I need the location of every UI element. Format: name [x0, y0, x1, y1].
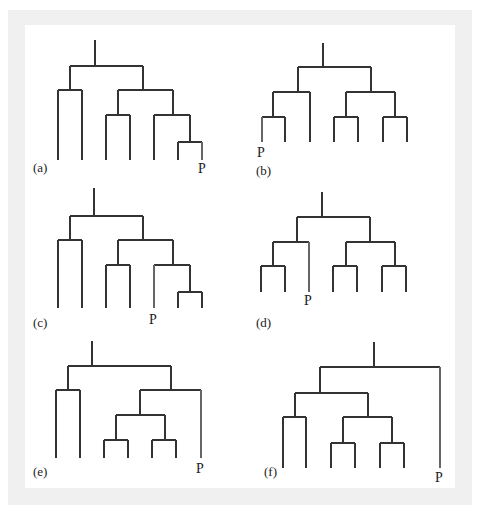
- tree-d: (d) P: [256, 192, 406, 330]
- tree-e: (e) P: [33, 341, 204, 479]
- tree-c-branches: [58, 188, 202, 308]
- tree-b-label: (b): [256, 163, 271, 178]
- tree-f-label: (f): [264, 464, 277, 479]
- tree-b: (b) P: [256, 43, 407, 178]
- tree-e-branches: [56, 341, 201, 458]
- tree-a-label: (a): [33, 160, 47, 175]
- tree-c-p-label: P: [149, 312, 157, 327]
- tree-b-p-label: P: [257, 145, 265, 160]
- tree-e-label: (e): [33, 464, 47, 479]
- tree-c-label: (c): [33, 315, 47, 330]
- tree-b-branches: [262, 43, 407, 142]
- tree-e-p-label: P: [196, 461, 204, 476]
- tree-f: (f) P: [264, 342, 443, 485]
- tree-d-branches: [261, 192, 406, 292]
- tree-d-label: (d): [256, 315, 271, 330]
- tree-d-p-label: P: [304, 293, 312, 308]
- tree-f-branches: [283, 342, 440, 468]
- tree-a: (a) P: [33, 40, 206, 176]
- tree-c: (c) P: [33, 188, 202, 330]
- tree-a-p-label: P: [198, 161, 206, 176]
- dendrogram-figure: (a) P (b) P (c) P (d) P (e) P (f) P: [0, 0, 480, 515]
- tree-a-branches: [58, 40, 202, 160]
- tree-f-p-label: P: [435, 470, 443, 485]
